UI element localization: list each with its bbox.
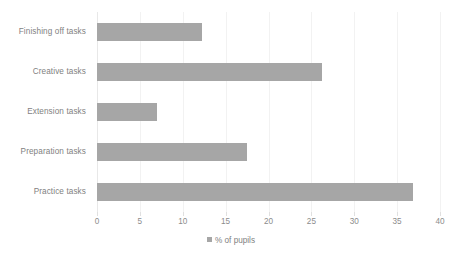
legend-swatch-icon <box>207 237 212 242</box>
axis-tick <box>440 212 441 216</box>
category-label: Creative tasks <box>33 52 86 92</box>
bar <box>97 183 413 201</box>
axis-tick <box>226 212 227 216</box>
category-label: Practice tasks <box>34 172 86 212</box>
axis-tick <box>183 212 184 216</box>
axis-tick-label: 40 <box>425 217 455 226</box>
axis-tick-label: 10 <box>168 217 198 226</box>
gridline-25 <box>311 12 312 212</box>
category-label: Extension tasks <box>27 92 86 132</box>
bar <box>97 63 322 81</box>
axis-tick-label: 35 <box>382 217 412 226</box>
axis-tick <box>269 212 270 216</box>
gridline-15 <box>226 12 227 212</box>
axis-tick-label: 25 <box>296 217 326 226</box>
bar <box>97 23 202 41</box>
bar <box>97 103 157 121</box>
axis-tick <box>311 212 312 216</box>
plot-area <box>97 12 440 212</box>
gridline-10 <box>183 12 184 212</box>
category-axis: Finishing off tasks Creative tasks Exten… <box>0 12 92 212</box>
value-axis: 0 5 10 15 20 25 30 35 40 <box>97 212 440 213</box>
chart-legend: % of pupils <box>0 231 462 249</box>
axis-tick <box>397 212 398 216</box>
axis-tick-label: 0 <box>82 217 112 226</box>
gridline-20 <box>269 12 270 212</box>
gridline-40 <box>440 12 441 212</box>
axis-tick-label: 5 <box>125 217 155 226</box>
axis-tick <box>140 212 141 216</box>
axis-tick-label: 30 <box>339 217 369 226</box>
legend-label: % of pupils <box>215 236 255 245</box>
bar <box>97 143 247 161</box>
axis-tick-label: 15 <box>211 217 241 226</box>
bar-chart: Finishing off tasks Creative tasks Exten… <box>0 0 462 254</box>
axis-tick-label: 20 <box>254 217 284 226</box>
axis-tick <box>354 212 355 216</box>
category-label: Finishing off tasks <box>19 12 86 52</box>
axis-tick <box>97 212 98 216</box>
category-label: Preparation tasks <box>21 132 86 172</box>
legend-item: % of pupils <box>207 231 255 249</box>
gridline-30 <box>354 12 355 212</box>
gridline-35 <box>397 12 398 212</box>
